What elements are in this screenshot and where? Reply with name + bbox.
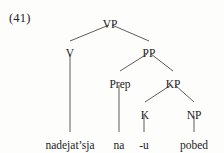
tree-node-prep: Prep xyxy=(109,78,130,90)
syntax-tree-figure: (41) VPVPPPrepKPKNP nadejat’sjana-upobed xyxy=(0,0,224,153)
tree-node-vp: VP xyxy=(103,18,118,30)
tree-node-np: NP xyxy=(187,109,202,121)
tree-node-kp: KP xyxy=(166,78,181,90)
tree-node-pp: PP xyxy=(143,47,156,59)
tree-terminal-pobed: pobed xyxy=(180,139,208,151)
tree-terminal-nadejatsja: nadejat’sja xyxy=(45,139,94,151)
tree-terminal-na: na xyxy=(114,139,125,151)
tree-edge-vp-to-pp xyxy=(112,25,149,41)
tree-node-k: K xyxy=(141,109,149,121)
tree-terminal-u: -u xyxy=(139,139,149,151)
tree-node-v: V xyxy=(66,47,74,59)
example-number-label: (41) xyxy=(9,11,31,26)
